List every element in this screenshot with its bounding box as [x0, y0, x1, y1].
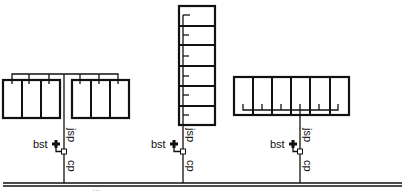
bst-label-1: bst [33, 138, 48, 150]
jsp-label-2: jsp [185, 127, 197, 142]
config-vertical-stack [179, 6, 215, 183]
cp-label-1: cp [66, 160, 78, 172]
main-bus [3, 183, 402, 186]
bst-label-3: bst [270, 138, 285, 150]
cp-label-2: cp [185, 160, 197, 172]
system-diagram: bst bst bst jsp jsp jsp cp cp cp ‹‹‹ [0, 0, 405, 191]
jsp-label-3: jsp [302, 127, 314, 142]
bst-label-2: bst [151, 138, 166, 150]
footnote-mark: ‹‹‹ [92, 187, 100, 191]
config-horizontal-row [234, 77, 349, 183]
config-split-horizontal-arrays [3, 74, 129, 183]
panel-group-left [3, 80, 60, 118]
cp-label-3: cp [302, 160, 314, 172]
panel-group-right [72, 80, 129, 118]
jsp-label-1: jsp [66, 127, 78, 142]
